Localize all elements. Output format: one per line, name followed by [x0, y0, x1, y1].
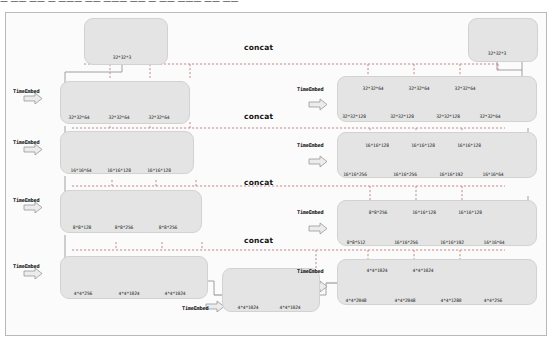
- label-output-32-32-3: 32*32*3: [488, 51, 506, 56]
- dec1-label-top-0: 32*32*64: [363, 86, 384, 91]
- label-enc4-0: 4*4*256: [74, 291, 92, 296]
- panel-dec4: [337, 259, 537, 305]
- label-enc3-0: 8*8*128: [73, 225, 91, 230]
- label-enc1-0: 32*32*64: [69, 115, 90, 120]
- time-embed-arrow-enc3: [24, 202, 42, 213]
- time-embed-arrow-enc2: [24, 144, 42, 155]
- dec4-label-bot-3: 4*4*256: [484, 298, 502, 303]
- dec2-label-bot-2: 16*16*192: [439, 172, 463, 177]
- label-enc2-2: 16*16*128: [147, 168, 171, 173]
- dec1-label-top-1: 32*32*64: [409, 86, 430, 91]
- dec2-label-bot-3: 16*16*64: [483, 172, 504, 177]
- diagram-canvas: — —— —— — ——— —— ——— —— — —— ——— —— —— c…: [0, 0, 552, 347]
- label-enc2-0: 16*16*64: [71, 168, 92, 173]
- dec1-label-bot-2: 32*32*128: [436, 114, 460, 119]
- label-bottleneck-1: 4*4*1024: [280, 305, 301, 310]
- dec1-label-top-2: 32*32*64: [455, 86, 476, 91]
- dec2-label-top-2: 16*16*128: [457, 143, 481, 148]
- dec4-label-top-0: 4*4*1024: [367, 268, 388, 273]
- label-enc4-1: 4*4*1024: [119, 291, 140, 296]
- time-embed-label-bottleneck: TimeEmbed: [182, 305, 208, 311]
- dec3-label-bot-1: 16*16*256: [394, 240, 418, 245]
- dec4-label-bot-0: 4*4*2048: [346, 298, 367, 303]
- label-enc1-2: 32*32*64: [149, 115, 170, 120]
- time-embed-arrow-dec2-shape: [309, 156, 327, 167]
- dec3-label-bot-2: 16*16*192: [440, 240, 464, 245]
- time-embed-label-dec1: TimeEmbed: [297, 86, 323, 92]
- dec2-label-top-0: 16*16*128: [365, 143, 389, 148]
- dec3-label-bot-3: 16*16*64: [484, 240, 505, 245]
- dec3-label-top-2: 16*16*128: [458, 210, 482, 215]
- time-embed-arrow-dec1-shape: [309, 99, 327, 110]
- dec1-label-bot-1: 32*32*128: [390, 114, 414, 119]
- dec4-label-bot-2: 4*4*1280: [441, 298, 462, 303]
- dec3-label-top-0: 8*8*256: [369, 210, 387, 215]
- dec2-label-top-1: 16*16*128: [411, 143, 435, 148]
- time-embed-label-enc4: TimeEmbed: [13, 263, 39, 269]
- panel-dec3: [337, 200, 537, 246]
- concat-label-3: concat: [244, 178, 273, 187]
- label-input-32-32-3: 32*32*3: [113, 55, 131, 60]
- dec2-label-bot-1: 16*16*256: [393, 172, 417, 177]
- time-embed-label-enc2: TimeEmbed: [13, 139, 39, 145]
- time-embed-label-enc3: TimeEmbed: [13, 197, 39, 203]
- time-embed-arrow-enc1: [24, 93, 42, 104]
- time-embed-label-dec3: TimeEmbed: [297, 209, 323, 215]
- dec3-label-bot-0: 8*8*512: [347, 240, 365, 245]
- dec1-label-bot-0: 32*32*128: [342, 114, 366, 119]
- concat-label-2: concat: [244, 112, 273, 121]
- dec4-label-bot-1: 4*4*2048: [395, 298, 416, 303]
- dec2-label-bot-0: 16*16*256: [343, 172, 367, 177]
- time-embed-label-dec4: TimeEmbed: [297, 268, 323, 274]
- time-embed-arrow-enc4: [24, 268, 42, 279]
- label-enc1-1: 32*32*64: [109, 115, 130, 120]
- label-bottleneck-0: 4*4*1024: [238, 305, 259, 310]
- time-embed-arrow-dec3-shape: [309, 223, 327, 234]
- dec4-label-top-1: 4*4*1024: [413, 268, 434, 273]
- label-enc4-2: 4*4*1024: [165, 291, 186, 296]
- label-enc3-1: 8*8*256: [115, 225, 133, 230]
- concat-label-1: concat: [244, 43, 273, 52]
- label-enc3-2: 8*8*256: [159, 225, 177, 230]
- time-embed-label-dec2: TimeEmbed: [297, 142, 323, 148]
- dec1-label-bot-3: 32*32*64: [480, 114, 501, 119]
- concat-label-4: concat: [244, 236, 273, 245]
- time-embed-label-enc1: TimeEmbed: [13, 88, 39, 94]
- label-enc2-1: 16*16*128: [107, 168, 131, 173]
- dec3-label-top-1: 16*16*128: [412, 210, 436, 215]
